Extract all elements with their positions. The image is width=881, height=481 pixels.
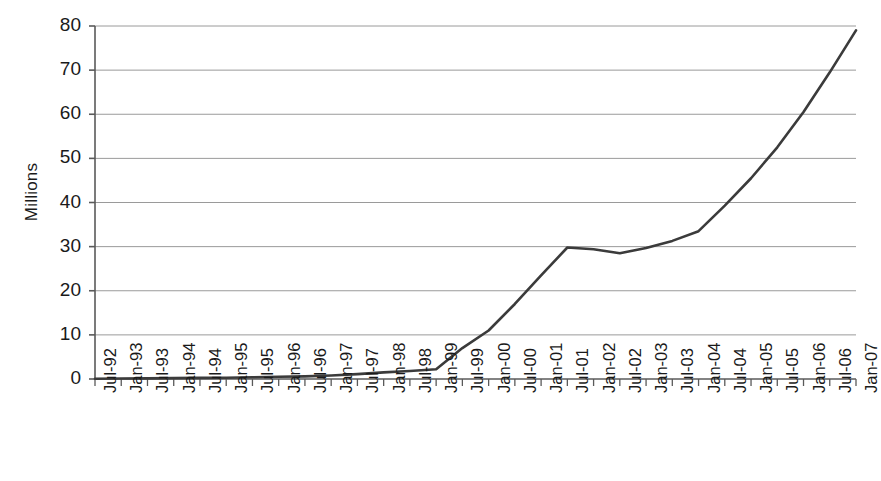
x-tick-label: Jan-96 (285, 343, 304, 393)
x-tick-label: Jan-97 (337, 343, 356, 393)
x-tick-label: Jul-01 (573, 348, 592, 393)
x-tick-label: Jan-03 (652, 343, 671, 393)
x-tick-label: Jul-94 (206, 348, 225, 393)
data-series-line (95, 30, 856, 378)
x-tick-label: Jan-94 (180, 343, 199, 393)
x-tick-label: Jan-00 (495, 343, 514, 393)
x-tick-label: Jul-05 (783, 348, 802, 393)
y-tick-label: 0 (33, 367, 81, 389)
y-tick-label: 10 (33, 323, 81, 345)
y-tick-label: 80 (33, 14, 81, 36)
x-tick-label: Jan-06 (810, 343, 829, 393)
y-axis-tick-marks (89, 26, 95, 379)
y-tick-label: 20 (33, 279, 81, 301)
x-tick-label: Jul-00 (521, 348, 540, 393)
x-tick-label: Jul-99 (468, 348, 487, 393)
x-tick-label: Jul-96 (311, 348, 330, 393)
x-tick-label: Jul-95 (258, 348, 277, 393)
y-tick-label: 70 (33, 58, 81, 80)
x-tick-label: Jan-05 (757, 343, 776, 393)
x-tick-label: Jan-95 (232, 343, 251, 393)
x-tick-label: Jan-02 (600, 343, 619, 393)
y-tick-label: 60 (33, 102, 81, 124)
x-tick-label: Jan-98 (390, 343, 409, 393)
y-tick-label: 40 (33, 191, 81, 213)
x-tick-label: Jan-07 (862, 343, 881, 393)
x-tick-label: Jul-02 (626, 348, 645, 393)
x-tick-label: Jul-03 (678, 348, 697, 393)
x-tick-label: Jul-92 (101, 348, 120, 393)
x-tick-label: Jul-98 (416, 348, 435, 393)
x-tick-label: Jul-97 (363, 348, 382, 393)
x-tick-label: Jan-99 (442, 343, 461, 393)
x-tick-label: Jul-93 (153, 348, 172, 393)
y-tick-label: 30 (33, 235, 81, 257)
y-tick-label: 50 (33, 146, 81, 168)
x-tick-label: Jan-01 (547, 343, 566, 393)
gridlines (95, 26, 856, 335)
x-tick-label: Jul-04 (731, 348, 750, 393)
x-tick-label: Jul-06 (836, 348, 855, 393)
x-tick-label: Jan-93 (127, 343, 146, 393)
x-tick-label: Jan-04 (705, 343, 724, 393)
